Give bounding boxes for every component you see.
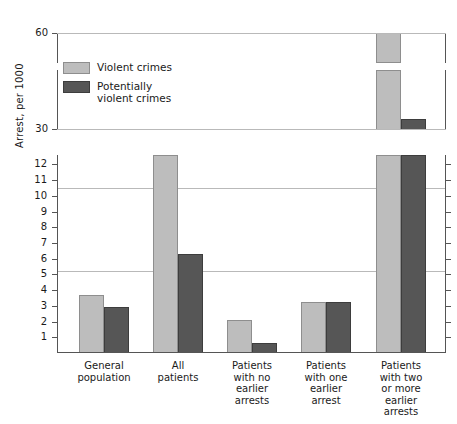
ticklabel-10: 10 bbox=[23, 191, 47, 201]
legend-swatch-potentially-violent-crimes bbox=[63, 81, 90, 93]
tick-5 bbox=[52, 274, 57, 275]
tick-8 bbox=[52, 227, 57, 228]
tick-right-2 bbox=[446, 322, 451, 323]
tick-11 bbox=[52, 180, 57, 181]
panel-upper-plot bbox=[57, 33, 446, 63]
tick-right-11 bbox=[446, 180, 451, 181]
tick-right-10 bbox=[446, 196, 451, 197]
bar-violent-all-patients bbox=[153, 155, 178, 353]
tick-right-6 bbox=[446, 259, 451, 260]
gridline-30 bbox=[57, 129, 446, 130]
category-label-4: Patientswith twoor moreearlierarrests bbox=[361, 360, 441, 418]
bar-violent-no-earlier-arrests bbox=[227, 320, 252, 353]
gridline-60 bbox=[57, 33, 446, 34]
panel-upper-right-spine bbox=[445, 33, 446, 63]
tick-12 bbox=[52, 164, 57, 165]
bar-violent-general-population bbox=[79, 295, 104, 353]
ticklabel-30: 30 bbox=[24, 124, 48, 134]
tick-right-1 bbox=[446, 337, 451, 338]
ticklabel-6: 6 bbox=[23, 254, 47, 264]
legend-item-violent-crimes: Violent crimes bbox=[63, 62, 189, 74]
ticklabel-11: 11 bbox=[23, 175, 47, 185]
bar-violent-two-or-more-middle bbox=[376, 70, 401, 130]
bar-violent-one-earlier-arrest bbox=[301, 302, 326, 353]
panel-middle-left-spine bbox=[57, 70, 58, 130]
tick-right-7 bbox=[446, 243, 451, 244]
legend-item-potentially-violent-crimes: Potentiallyviolent crimes bbox=[63, 81, 189, 104]
panel-lower-left-spine bbox=[57, 155, 58, 353]
tick-6 bbox=[52, 259, 57, 260]
bar-potential-one-earlier-arrest bbox=[326, 302, 351, 353]
bar-potential-two-or-more-lower bbox=[401, 155, 426, 353]
panel-lower-right-spine bbox=[445, 155, 446, 353]
tick-60 bbox=[52, 33, 57, 34]
panel-lower-bottom-spine bbox=[57, 352, 446, 353]
ticklabel-7: 7 bbox=[23, 238, 47, 248]
chart-legend: Violent crimes Potentiallyviolent crimes bbox=[63, 62, 189, 111]
chart-canvas: Arrest, per 1000 60 30 bbox=[0, 0, 457, 424]
legend-swatch-violent-crimes bbox=[63, 62, 90, 74]
tick-9 bbox=[52, 212, 57, 213]
ticklabel-5: 5 bbox=[23, 269, 47, 279]
tick-right-8 bbox=[446, 227, 451, 228]
bar-potential-general-population bbox=[104, 307, 129, 353]
panel-upper-left-spine bbox=[57, 33, 58, 63]
ticklabel-2: 2 bbox=[23, 317, 47, 327]
ticklabel-3: 3 bbox=[23, 301, 47, 311]
ticklabel-4: 4 bbox=[23, 285, 47, 295]
bar-potential-all-patients bbox=[178, 254, 203, 353]
category-label-3: Patientswith oneearlierarrest bbox=[286, 360, 366, 406]
legend-label-potentially-violent-crimes: Potentiallyviolent crimes bbox=[97, 81, 189, 104]
legend-label-violent-crimes: Violent crimes bbox=[97, 62, 172, 74]
tick-2 bbox=[52, 322, 57, 323]
tick-30 bbox=[52, 129, 57, 130]
bar-violent-two-or-more-lower bbox=[376, 155, 401, 353]
ticklabel-12: 12 bbox=[23, 159, 47, 169]
tick-7 bbox=[52, 243, 57, 244]
category-label-0: Generalpopulation bbox=[64, 360, 144, 383]
tick-3 bbox=[52, 306, 57, 307]
tick-1 bbox=[52, 337, 57, 338]
panel-lower-plot bbox=[57, 155, 446, 353]
ticklabel-9: 9 bbox=[23, 207, 47, 217]
panel-middle-right-spine bbox=[445, 70, 446, 130]
ticklabel-8: 8 bbox=[23, 222, 47, 232]
tick-right-5 bbox=[446, 274, 451, 275]
tick-right-9 bbox=[446, 212, 451, 213]
bar-violent-two-or-more-upper bbox=[376, 33, 401, 63]
panel-lower bbox=[57, 155, 446, 353]
ticklabel-60: 60 bbox=[24, 28, 48, 38]
panel-upper bbox=[57, 33, 446, 63]
tick-4 bbox=[52, 290, 57, 291]
ticklabel-1: 1 bbox=[23, 332, 47, 342]
tick-10 bbox=[52, 196, 57, 197]
tick-right-12 bbox=[446, 164, 451, 165]
tick-right-4 bbox=[446, 290, 451, 291]
tick-right-3 bbox=[446, 306, 451, 307]
category-label-2: Patientswith noearlierarrests bbox=[212, 360, 292, 406]
category-label-1: Allpatients bbox=[138, 360, 218, 383]
